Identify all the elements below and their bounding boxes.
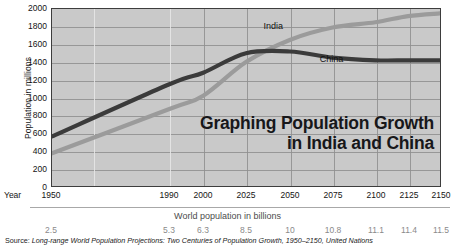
y-axis-tick-label: 2000 bbox=[3, 3, 47, 13]
source-note: Source: Long-range World Population Proj… bbox=[5, 236, 373, 245]
secondary-axis-tick-label: 2.5 bbox=[45, 225, 57, 235]
chart-title: Graphing Population Growth in India and … bbox=[134, 113, 434, 153]
y-axis-tick-label: 1200 bbox=[3, 75, 47, 85]
chart-figure: Population in millions 20001800160014001… bbox=[0, 0, 455, 247]
x-axis-ticks: 195019902000202520502075210021252150 bbox=[0, 190, 455, 203]
plot-area: India China Graphing Population Growth i… bbox=[51, 8, 441, 187]
secondary-axis-tick-label: 5.3 bbox=[163, 225, 175, 235]
y-axis-tick-label: 1400 bbox=[3, 57, 47, 67]
secondary-axis-tick-label: 11.4 bbox=[401, 225, 417, 235]
series-label-india: India bbox=[263, 21, 283, 31]
secondary-axis-tick-label: 10.8 bbox=[325, 225, 342, 235]
x-axis-tick-label: 2050 bbox=[281, 190, 300, 200]
series-label-china: China bbox=[320, 54, 344, 64]
y-axis-tick-label: 200 bbox=[3, 164, 47, 174]
x-axis-tick-label: 2125 bbox=[400, 190, 419, 200]
secondary-axis-title: World population in billions bbox=[0, 211, 455, 221]
x-axis-tick-label: 2100 bbox=[367, 190, 386, 200]
y-axis-tick-label: 400 bbox=[3, 146, 47, 156]
secondary-axis-tick-label: 8.5 bbox=[240, 225, 252, 235]
secondary-axis-tick-label: 11.1 bbox=[368, 225, 384, 235]
x-axis-tick-label: 1990 bbox=[160, 190, 179, 200]
series-layer bbox=[52, 9, 440, 186]
x-axis-tick-label: 2000 bbox=[194, 190, 213, 200]
secondary-axis-tick-label: 11.5 bbox=[433, 225, 449, 235]
x-axis-tick-label: 2075 bbox=[324, 190, 343, 200]
y-axis-tick-label: 1800 bbox=[3, 21, 47, 31]
x-axis-tick-label: 2150 bbox=[432, 190, 451, 200]
chart-title-line1: Graphing Population Growth bbox=[134, 113, 434, 133]
axis-divider bbox=[30, 207, 450, 208]
source-prefix: Source: bbox=[5, 236, 32, 245]
secondary-axis-tick-label: 10 bbox=[285, 225, 294, 235]
source-citation: Long-range World Population Projections:… bbox=[32, 236, 373, 245]
y-axis-tick-label: 600 bbox=[3, 128, 47, 138]
x-axis-tick-label: 2025 bbox=[237, 190, 256, 200]
x-axis-tick-label: 1950 bbox=[42, 190, 61, 200]
y-axis-tick-label: 1000 bbox=[3, 93, 47, 103]
secondary-axis-tick-label: 6.3 bbox=[197, 225, 209, 235]
y-axis-tick-label: 1600 bbox=[3, 39, 47, 49]
y-axis-ticks: 2000180016001400120010008006004002000 bbox=[0, 0, 47, 247]
chart-title-line2: in India and China bbox=[134, 133, 434, 153]
y-axis-tick-label: 800 bbox=[3, 110, 47, 120]
